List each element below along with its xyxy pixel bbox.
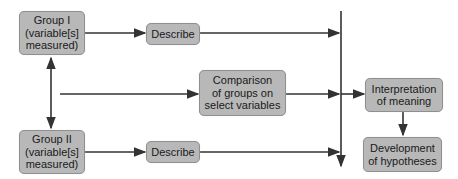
node-comparison: Comparison of groups on select variables [199,70,286,116]
node-development: Development of hypotheses [363,137,442,172]
node-group-1: Group I (variable[s] measured) [19,11,85,55]
node-describe-1: Describe [146,23,200,45]
node-group-2: Group II (variable[s] measured) [19,130,85,174]
node-interpretation: Interpretation of meaning [365,78,443,112]
node-describe-2: Describe [146,141,200,163]
